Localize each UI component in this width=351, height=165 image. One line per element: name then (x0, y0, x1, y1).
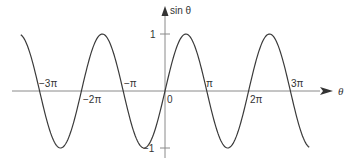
y-tick-label-minus-1: −1 (143, 143, 155, 154)
x-axis-arrow-icon (320, 87, 333, 95)
sine-chart: sin θ θ 1 −1 0 −3π −2π −π π 2π 3π (0, 0, 351, 165)
x-axis-label: θ (338, 85, 344, 97)
x-tick-label-2pi: 2π (250, 94, 263, 105)
y-tick-label-1: 1 (150, 29, 156, 40)
x-tick-label-neg3pi: −3π (39, 78, 57, 89)
y-axis-label: sin θ (170, 5, 192, 16)
x-tick-label-pi: π (206, 78, 213, 89)
x-tick-label-3pi: 3π (291, 78, 304, 89)
y-axis-label-text: sin θ (170, 5, 192, 16)
x-tick-label-negpi: −π (124, 78, 137, 89)
x-tick-label-origin: 0 (167, 94, 173, 105)
x-tick-label-neg2pi: −2π (83, 94, 101, 105)
y-axis-arrow-icon (162, 6, 169, 16)
